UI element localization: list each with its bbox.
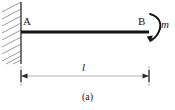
moment-couple-arrow <box>147 14 161 43</box>
label-length-l: l <box>82 62 85 73</box>
cantilever-beam-figure: A B m l (a) <box>0 0 175 110</box>
figure-caption: (a) <box>0 92 175 102</box>
label-point-b: B <box>138 16 145 27</box>
support-hatching <box>2 2 21 64</box>
label-point-a: A <box>23 16 31 27</box>
label-moment-m: m <box>161 19 169 30</box>
